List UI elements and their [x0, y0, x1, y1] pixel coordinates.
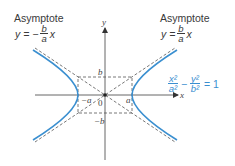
origin-point: [103, 93, 107, 97]
tick-origin: 0: [98, 98, 103, 108]
tick-neg-b: −b: [94, 116, 105, 126]
y-axis-label: y: [101, 17, 106, 27]
tick-b: b: [98, 67, 103, 77]
tick-neg-a: −a: [81, 95, 92, 105]
tick-a: a: [126, 95, 131, 105]
hyperbola-diagram: b −b a −a 0 x y: [0, 0, 235, 166]
x-axis-label: x: [179, 90, 184, 100]
